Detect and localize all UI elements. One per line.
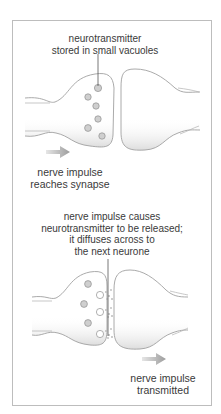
- right-arrow-icon: [46, 146, 70, 158]
- release-label: nerve impulse causes neurotransmitter to…: [22, 211, 202, 257]
- bottom-panel: [32, 259, 188, 365]
- top-panel: [25, 54, 200, 158]
- label-line: the next neurone: [22, 246, 202, 258]
- vesicle: [85, 281, 92, 288]
- fusing-vesicle: [96, 308, 103, 315]
- impulse-reaches-caption: nerve impulse reaches synapse: [20, 166, 120, 190]
- label-line: neurotransmitter to be released;: [22, 223, 202, 235]
- postsynaptic-neuron-bottom: [114, 270, 188, 349]
- vesicle: [81, 301, 88, 308]
- right-arrow-icon: [142, 353, 166, 365]
- label-line: nerve impulse causes: [22, 211, 202, 223]
- synapse-diagram: [0, 0, 221, 414]
- label-line: it diffuses across to: [22, 234, 202, 246]
- vesicle: [85, 125, 92, 132]
- caption-line: transmitted: [118, 384, 208, 396]
- vesicle: [99, 133, 105, 139]
- label-line: neurotransmitter: [40, 33, 170, 45]
- fusing-vesicle: [96, 330, 103, 337]
- caption-line: nerve impulse: [118, 372, 208, 384]
- label-line: stored in small vacuoles: [40, 45, 170, 57]
- caption-line: reaches synapse: [20, 178, 120, 190]
- fusing-vesicle: [96, 291, 103, 298]
- postsynaptic-neuron-top: [121, 69, 200, 150]
- vesicle: [93, 103, 99, 109]
- impulse-transmitted-caption: nerve impulse transmitted: [118, 372, 208, 396]
- vesicle: [85, 94, 91, 100]
- caption-line: nerve impulse: [20, 166, 120, 178]
- vesicle: [95, 116, 101, 122]
- vacuoles-label: neurotransmitter stored in small vacuole…: [40, 33, 170, 56]
- presynaptic-neuron-bottom: [32, 272, 107, 346]
- vesicle: [85, 320, 92, 327]
